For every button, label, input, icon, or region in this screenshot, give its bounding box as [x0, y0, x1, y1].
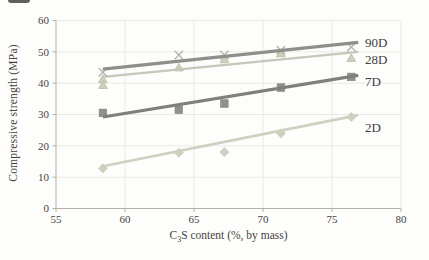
series-label-28D: 28D [365, 52, 387, 67]
x-tick-label: 60 [120, 213, 132, 225]
y-tick-label: 40 [38, 77, 50, 89]
trend-line-7D [103, 75, 358, 117]
x-tick-label: 70 [258, 213, 270, 225]
square-marker [175, 106, 183, 114]
x-axis-label-suffix: S content (%, by mass) [181, 229, 287, 241]
x-tick-label: 65 [189, 213, 201, 225]
y-tick-label: 0 [44, 202, 50, 214]
diamond-marker [220, 148, 229, 157]
y-tick-label: 10 [38, 171, 50, 183]
series-label-2D: 2D [365, 120, 381, 135]
plot-area: 55606570758001020304050602D7D28D90D [0, 0, 429, 260]
y-tick-label: 60 [38, 14, 50, 26]
x-axis-label-prefix: C [169, 229, 177, 241]
x-tick-label: 55 [51, 213, 63, 225]
x-tick-label: 80 [396, 213, 408, 225]
chart-figure: 55606570758001020304050602D7D28D90D Comp… [0, 0, 429, 260]
x-axis-label: C3S content (%, by mass) [56, 229, 401, 244]
y-axis-label: Compressive strength (MPa) [7, 44, 19, 181]
y-tick-label: 50 [38, 46, 50, 58]
square-marker [221, 100, 229, 108]
series-label-7D: 7D [365, 74, 381, 89]
triangle-marker [347, 54, 356, 62]
x-tick-label: 75 [327, 213, 339, 225]
series-label-90D: 90D [365, 35, 387, 50]
y-tick-label: 20 [38, 140, 50, 152]
y-tick-label: 30 [38, 108, 50, 120]
trend-line-2D [103, 115, 358, 166]
